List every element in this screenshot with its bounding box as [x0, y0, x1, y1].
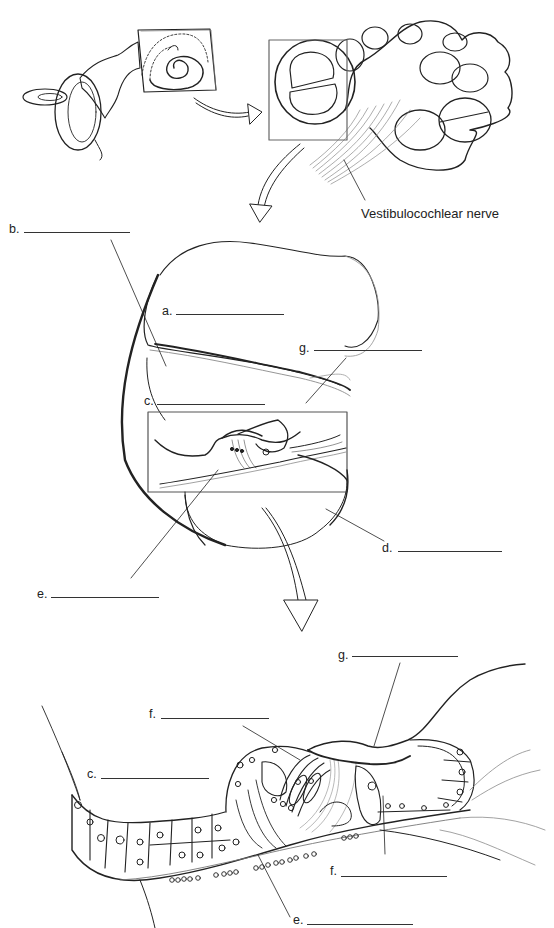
label-c: c.: [144, 394, 154, 408]
cochlear-duct-illustration: [111, 240, 384, 578]
answer-blank-c[interactable]: [157, 404, 265, 405]
answer-blank-f-bottom[interactable]: [341, 876, 447, 877]
label-e: e.: [37, 587, 47, 601]
label-g: g.: [299, 341, 309, 355]
answer-blank-b[interactable]: [24, 232, 130, 233]
answer-blank-f-top[interactable]: [161, 718, 269, 719]
arrow-to-duct-section: [250, 144, 304, 222]
answer-blank-c-detail[interactable]: [101, 778, 209, 779]
cochlea-section-illustration: [269, 21, 512, 200]
label-f-bottom: f.: [330, 864, 337, 878]
answer-blank-e-detail[interactable]: [307, 924, 413, 925]
vestibulocochlear-nerve-caption: Vestibulocochlear nerve: [361, 206, 499, 221]
label-b: b.: [9, 222, 19, 236]
answer-blank-g-detail[interactable]: [352, 656, 458, 657]
label-d: d.: [382, 541, 392, 555]
answer-blank-a[interactable]: [176, 314, 284, 315]
label-e-detail: e.: [293, 913, 303, 927]
label-g-detail: g.: [338, 648, 348, 662]
cochlea-diagram: [0, 0, 554, 928]
answer-blank-d[interactable]: [398, 551, 502, 552]
arrow-to-cochlea-section: [194, 98, 262, 124]
label-a: a.: [162, 304, 172, 318]
answer-blank-e[interactable]: [51, 597, 159, 598]
label-c-detail: c.: [87, 767, 97, 781]
answer-blank-g[interactable]: [314, 350, 422, 351]
arrow-to-organ-detail: [262, 508, 318, 631]
inner-ear-illustration: [23, 29, 216, 160]
organ-of-corti-illustration: [42, 663, 545, 928]
label-f-top: f.: [149, 707, 156, 721]
